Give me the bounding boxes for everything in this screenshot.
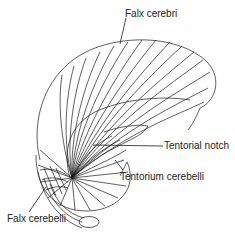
dural-reflections-illustration xyxy=(0,0,235,234)
label-tentorial-notch: Tentorial notch xyxy=(164,140,229,151)
falx-cerebri-shape xyxy=(37,40,216,178)
label-tentorium-cerebelli: Tentorium cerebelli xyxy=(120,171,204,182)
falx-cerebri-leader xyxy=(120,18,126,44)
label-falx-cerebelli: Falx cerebelli xyxy=(7,213,66,224)
dura-diagram: Falx cerebri Tentorial notch Tentorium c… xyxy=(0,0,235,234)
tentorial-notch-leader xyxy=(93,145,163,146)
falx-cerebelli-leader xyxy=(29,187,46,212)
label-falx-cerebri: Falx cerebri xyxy=(125,8,177,19)
